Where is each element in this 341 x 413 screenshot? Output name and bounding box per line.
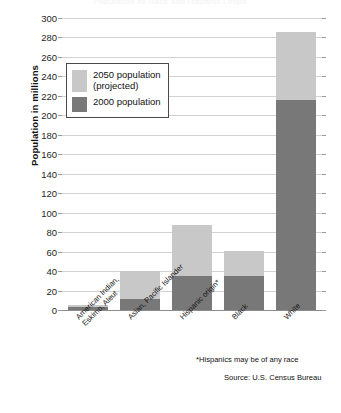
y-tick-mark (58, 213, 62, 214)
y-tick-mark-right (322, 252, 326, 253)
y-tick-mark (58, 291, 62, 292)
y-tick-mark-right (322, 154, 326, 155)
y-tick-mark-right (322, 96, 326, 97)
gridline (62, 18, 322, 19)
legend-swatch-2000 (72, 97, 87, 112)
y-tick-label: 60 (46, 246, 57, 257)
chart-title-cropped: Population by Race and Hispanic Origin (70, 0, 270, 5)
y-tick-label: 40 (46, 266, 57, 277)
footnote-source: Source: U.S. Census Bureau (224, 373, 322, 382)
y-tick-mark (58, 96, 62, 97)
y-tick-label: 100 (41, 207, 57, 218)
legend-swatch-2050 (72, 70, 87, 92)
bar-segment-2050 (276, 32, 316, 100)
y-tick-label: 20 (46, 285, 57, 296)
y-tick-mark (58, 154, 62, 155)
legend-entry-2050: 2050 population (projected) (72, 69, 161, 92)
population-bar-chart: Population by Race and Hispanic Origin P… (0, 0, 341, 413)
chart-legend: 2050 population (projected) 2000 populat… (66, 63, 169, 118)
y-tick-mark (58, 174, 62, 175)
y-tick-label: 140 (41, 168, 57, 179)
y-tick-label: 300 (41, 13, 57, 24)
y-tick-mark (58, 271, 62, 272)
y-tick-label: 260 (41, 51, 57, 62)
y-tick-label: 280 (41, 32, 57, 43)
y-tick-mark-right (322, 115, 326, 116)
legend-entry-2000: 2000 population (72, 96, 161, 112)
y-tick-mark-right (322, 291, 326, 292)
y-axis-title: Population in millions (29, 36, 40, 196)
y-tick-mark-right (322, 37, 326, 38)
legend-label-2050: 2050 population (projected) (93, 69, 161, 91)
y-tick-mark (58, 37, 62, 38)
y-tick-mark (58, 18, 62, 19)
y-tick-mark (58, 232, 62, 233)
y-tick-mark-right (322, 271, 326, 272)
y-tick-mark (58, 193, 62, 194)
y-tick-mark-right (322, 18, 326, 19)
y-tick-mark-right (322, 76, 326, 77)
y-tick-label: 160 (41, 149, 57, 160)
plot-area: 0204060801001201401601802002202402602803… (62, 18, 322, 310)
y-tick-label: 80 (46, 227, 57, 238)
y-tick-mark (58, 76, 62, 77)
y-tick-mark (58, 57, 62, 58)
y-tick-mark (58, 135, 62, 136)
bar-segment-2000 (276, 100, 316, 310)
y-tick-mark-right (322, 135, 326, 136)
y-tick-mark-right (322, 174, 326, 175)
y-tick-label: 0 (52, 305, 57, 316)
y-tick-mark (58, 252, 62, 253)
y-tick-mark (58, 310, 62, 311)
y-tick-label: 180 (41, 129, 57, 140)
y-tick-mark-right (322, 232, 326, 233)
y-tick-mark-right (322, 57, 326, 58)
y-tick-mark-right (322, 193, 326, 194)
y-tick-label: 240 (41, 71, 57, 82)
y-tick-label: 120 (41, 188, 57, 199)
legend-label-2000: 2000 population (93, 96, 161, 107)
y-tick-label: 200 (41, 110, 57, 121)
y-tick-mark-right (322, 213, 326, 214)
y-tick-mark-right (322, 310, 326, 311)
y-tick-mark (58, 115, 62, 116)
footnote-hispanics: *Hispanics may be of any race (196, 355, 299, 364)
y-tick-label: 220 (41, 90, 57, 101)
bar-segment-2050 (224, 251, 264, 276)
